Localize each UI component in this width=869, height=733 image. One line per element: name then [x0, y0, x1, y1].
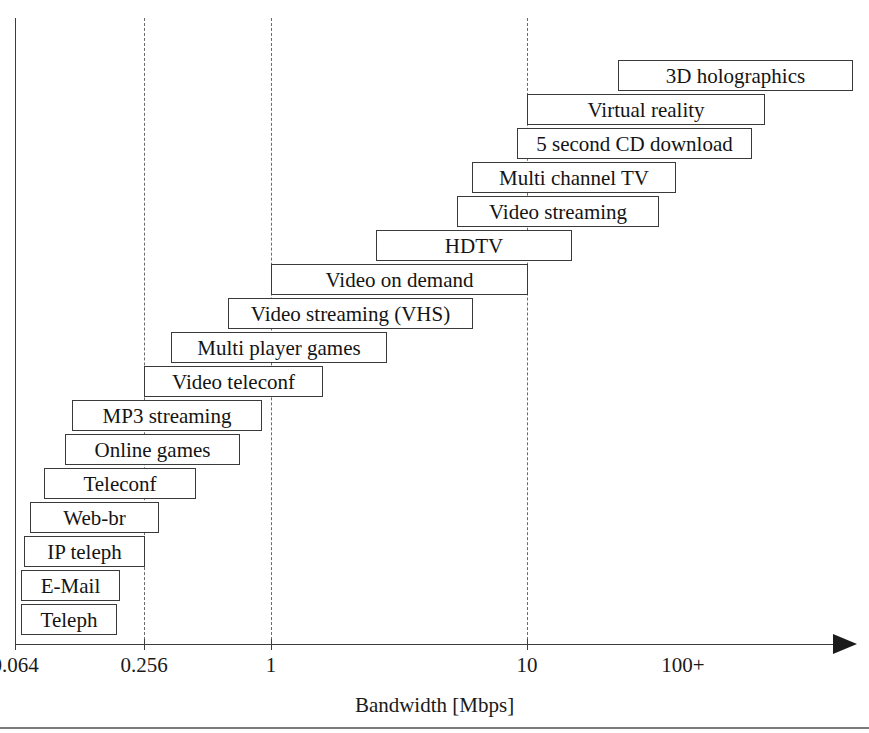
x-tick-mark-10 — [527, 639, 528, 650]
bar-label: Online games — [86, 438, 218, 462]
bar: Teleph — [21, 604, 117, 635]
bar-label: Teleconf — [75, 472, 164, 496]
bar: Video streaming — [457, 196, 659, 227]
page-bottom-rule — [0, 727, 869, 729]
bar-label: Video streaming — [481, 200, 635, 224]
bar-label: Teleph — [33, 608, 106, 632]
bar: Video on demand — [271, 264, 528, 295]
bar: IP teleph — [24, 536, 145, 567]
bar: HDTV — [376, 230, 572, 261]
x-axis-arrow-icon — [833, 634, 857, 654]
x-tick-mark-1 — [271, 639, 272, 650]
bar-label: MP3 streaming — [95, 404, 240, 428]
chart-plot-area: 0.0640.256110100+ 3D holographicsVirtual… — [0, 0, 869, 733]
bar-label: Video teleconf — [164, 370, 303, 394]
x-tick-mark-0.256 — [144, 639, 145, 650]
bar: Virtual reality — [527, 94, 765, 125]
bar-label: Web-br — [55, 506, 133, 530]
bar-label: E-Mail — [33, 574, 108, 598]
x-tick-label: 10 — [517, 652, 538, 678]
x-axis-title: Bandwidth [Mbps] — [0, 692, 869, 718]
x-tick-label: 1 — [266, 652, 277, 678]
bar: 5 second CD download — [517, 128, 752, 159]
bar-label: 3D holographics — [658, 64, 813, 88]
bar: E-Mail — [21, 570, 120, 601]
bar: Video streaming (VHS) — [228, 298, 473, 329]
y-axis-line — [15, 18, 16, 645]
bar-label: HDTV — [437, 234, 511, 258]
bar: Teleconf — [44, 468, 196, 499]
bar: Multi player games — [171, 332, 387, 363]
bar-label: Video streaming (VHS) — [243, 302, 458, 326]
bar: MP3 streaming — [72, 400, 262, 431]
bar-label: Virtual reality — [579, 98, 712, 122]
x-tick-label: 0.064 — [0, 652, 39, 678]
x-axis-line — [15, 644, 841, 645]
bar: Multi channel TV — [472, 162, 676, 193]
bar-label: Multi player games — [189, 336, 368, 360]
bar-label: Video on demand — [317, 268, 481, 292]
x-tick-label: 0.256 — [120, 652, 167, 678]
bar-label: Multi channel TV — [491, 166, 657, 190]
bandwidth-requirements-figure: 0.0640.256110100+ 3D holographicsVirtual… — [0, 0, 869, 733]
x-tick-mark-0.064 — [15, 639, 16, 650]
x-tick-label: 100+ — [661, 652, 704, 678]
bar: Video teleconf — [144, 366, 323, 397]
bar-label: 5 second CD download — [528, 132, 741, 156]
bar-label: IP teleph — [39, 540, 129, 564]
bar: Online games — [65, 434, 240, 465]
bar: Web-br — [30, 502, 159, 533]
bar: 3D holographics — [618, 60, 853, 91]
